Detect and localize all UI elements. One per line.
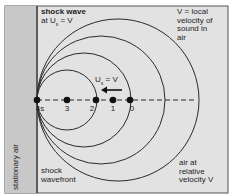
arrow-label: Us = V <box>95 76 118 87</box>
point-label-1: 1 <box>111 104 115 113</box>
shock-wave-condition: at Us = V <box>41 17 73 28</box>
point-label-0: 0 <box>130 104 134 113</box>
arrow-label-suffix: = V <box>103 75 117 84</box>
stationary-air-label: stationary air <box>11 130 23 190</box>
point-3-dot <box>64 97 71 104</box>
point-label-3: 3 <box>65 104 69 113</box>
shock-wavefront-label: shock wavefront <box>41 167 76 184</box>
point-4s-dot <box>34 97 41 104</box>
air-relative-line-3: velocity V <box>179 176 213 185</box>
velocity-note-line-4: air <box>177 34 213 43</box>
point-label-2: 2 <box>90 104 94 113</box>
velocity-note: V = local velocity of sound in air <box>177 8 213 42</box>
point-label-4s: 4s <box>36 104 44 113</box>
point-1-dot <box>110 97 117 104</box>
condition-prefix: at U <box>41 16 56 25</box>
condition-suffix: = V <box>58 16 72 25</box>
shock-wavefront-line-2: wavefront <box>41 176 76 185</box>
point-2-dot <box>93 97 100 104</box>
air-relative-velocity-label: air at relative velocity V <box>179 159 213 185</box>
point-0-dot <box>127 97 134 104</box>
